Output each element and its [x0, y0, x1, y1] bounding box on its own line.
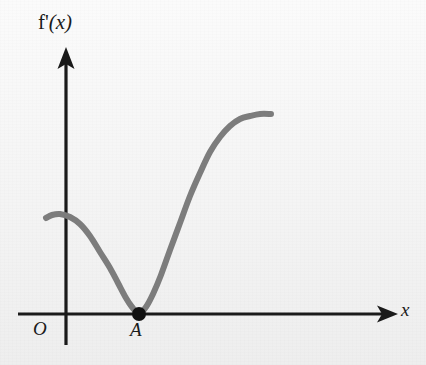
- graph-figure: f'(x) x O A: [0, 0, 426, 365]
- point-a-label: A: [130, 320, 142, 339]
- x-axis-label: x: [401, 300, 409, 319]
- graph-canvas: [0, 0, 426, 365]
- y-axis-label-variable: (x): [49, 10, 72, 34]
- y-axis-label: f'(x): [38, 12, 72, 33]
- y-axis-label-function: f': [38, 10, 49, 34]
- derivative-curve: [46, 114, 271, 314]
- origin-label: O: [33, 319, 47, 338]
